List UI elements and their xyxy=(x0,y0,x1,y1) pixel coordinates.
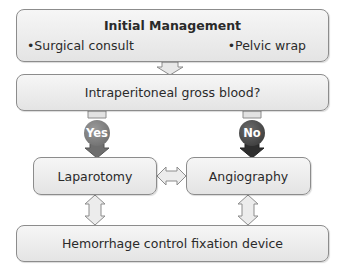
laparotomy-text: Laparotomy xyxy=(58,169,133,184)
double-arrow-icon xyxy=(157,167,186,185)
down-arrow-icon xyxy=(243,111,261,118)
question-box: Intraperitoneal gross blood? xyxy=(16,74,329,111)
down-arrow-icon xyxy=(88,111,106,118)
angiography-box: Angiography xyxy=(186,157,311,195)
down-arrow-icon xyxy=(85,144,109,158)
double-arrow-icon xyxy=(238,195,258,225)
yes-label: Yes xyxy=(86,126,108,140)
no-label: No xyxy=(243,126,261,140)
bullet-surgical-consult: •Surgical consult xyxy=(27,38,134,53)
bullet-pelvic-wrap: •Pelvic wrap xyxy=(228,38,306,53)
hemorrhage-control-text: Hemorrhage control fixation device xyxy=(62,236,283,251)
down-arrow-icon xyxy=(240,144,264,158)
double-arrow-icon xyxy=(85,195,105,225)
initial-management-box: Initial Management •Surgical consult •Pe… xyxy=(16,9,329,62)
no-badge: No xyxy=(239,120,265,146)
question-text: Intraperitoneal gross blood? xyxy=(85,85,261,100)
angiography-text: Angiography xyxy=(209,169,289,184)
hemorrhage-control-box: Hemorrhage control fixation device xyxy=(16,225,329,262)
initial-management-title: Initial Management xyxy=(17,18,328,33)
laparotomy-box: Laparotomy xyxy=(33,157,157,195)
yes-badge: Yes xyxy=(84,120,110,146)
